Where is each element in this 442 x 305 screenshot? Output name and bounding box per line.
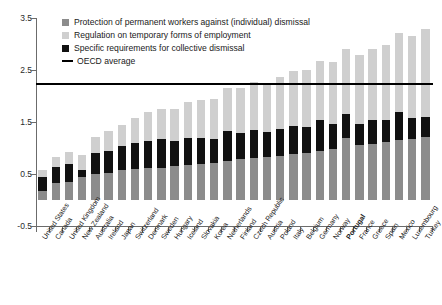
bar-segment-temporary [263,83,272,132]
bar-segment-collective [316,120,325,150]
bar-segment-temporary [170,109,179,141]
bar-segment-collective [250,130,259,159]
chart-legend: Protection of permanent workers against … [62,16,310,68]
bar-segment-permanent [210,163,219,200]
bar-segment-permanent [131,169,140,200]
bar-segment-collective [236,133,245,159]
bar-segment-temporary [65,152,74,163]
bar-segment-collective [329,124,338,149]
bar-segment-collective [355,124,364,146]
bar-segment-collective [91,153,100,174]
bar-segment-permanent [104,173,113,200]
bar-segment-permanent [421,137,430,200]
legend-label-collective: Specific requirements for collective dis… [74,43,245,53]
legend-label-oecd-average: OECD average [77,56,135,66]
bar-segment-permanent [329,149,338,200]
bar-segment-permanent [65,182,74,200]
bar-segment-permanent [250,158,259,200]
bar-segment-collective [276,129,285,156]
bar-segment-permanent [223,161,232,200]
legend-item-oecd-average: OECD average [62,55,310,67]
bar-segment-permanent [368,144,377,200]
bar-segment-temporary [316,61,325,121]
bar-segment-permanent [263,157,272,200]
bar-segment-temporary [236,88,245,134]
bar-segment-temporary [408,36,417,118]
bar-segment-permanent [342,138,351,200]
light-gray-swatch-icon [62,32,69,39]
bar-segment-permanent [184,165,193,200]
bar-segment-collective [118,146,127,169]
bar-segment-temporary [289,71,298,126]
bar-segment-collective [78,170,87,177]
bar-segment-temporary [250,82,259,130]
bar-segment-permanent [395,140,404,200]
bar-segment-collective [368,120,377,143]
bar-segment-permanent [170,166,179,200]
legend-item-permanent: Protection of permanent workers against … [62,16,310,28]
bar-segment-temporary [355,55,364,124]
bar-segment-collective [408,118,417,139]
bar-segment-permanent [78,177,87,200]
bar-segment-temporary [329,62,338,124]
bar-segment-collective [421,117,430,137]
black-swatch-icon [62,45,69,52]
bar-segment-permanent [289,154,298,200]
bar-segment-collective [223,131,232,161]
bar-segment-collective [65,164,74,182]
bar-segment-collective [289,126,298,155]
bar-segment-collective [263,132,272,157]
bar-segment-temporary [38,170,47,176]
bar-segment-collective [342,114,351,137]
bar-segment-temporary [395,33,404,112]
oecd-average-line [36,83,433,85]
bar-segment-permanent [157,168,166,200]
bar-segment-permanent [236,159,245,200]
bar-segment-collective [184,138,193,165]
legend-item-temporary: Regulation on temporary forms of employm… [62,29,310,41]
legend-label-temporary: Regulation on temporary forms of employm… [74,30,251,40]
bar-segment-permanent [382,142,391,200]
bar-segment-permanent [144,168,153,200]
bar-segment-permanent [276,156,285,200]
bar-segment-temporary [210,99,219,140]
bar-segment-collective [144,141,153,168]
bar-segment-temporary [223,88,232,131]
bar-segment-permanent [316,151,325,200]
bar-segment-temporary [302,70,311,127]
bar-segment-temporary [421,29,430,116]
bar-segment-collective [170,141,179,166]
bar-segment-temporary [144,112,153,141]
bar-segment-permanent [302,153,311,200]
bar-segment-temporary [157,109,166,139]
gray-swatch-icon [62,19,69,26]
bar-segment-temporary [52,157,61,166]
bar-segment-collective [382,120,391,142]
bar-segment-temporary [104,131,113,151]
bar-segment-collective [131,143,140,169]
x-tick-mark [36,227,37,232]
bar-segment-permanent [355,145,364,200]
bar-segment-collective [302,127,311,153]
bar-segment-collective [52,167,61,184]
bar-segment-permanent [52,183,61,200]
bar-segment-permanent [408,139,417,200]
bar-segment-permanent [118,170,127,200]
bar-segment-permanent [197,164,206,200]
bar-segment-temporary [131,118,140,143]
bar-segment-permanent [38,191,47,200]
bar-segment-collective [104,151,113,173]
bar-segment-temporary [118,125,127,147]
bar-segment-collective [157,139,166,168]
bar-segment-collective [38,177,47,192]
bar-segment-temporary [78,155,87,170]
legend-label-permanent: Protection of permanent workers against … [74,17,310,27]
bar-segment-collective [210,139,219,162]
bar-segment-temporary [91,137,100,154]
bar-segment-temporary [184,102,193,137]
bar-segment-temporary [342,49,351,114]
bar-segment-temporary [197,100,206,137]
bar-segment-collective [197,138,206,164]
legend-item-collective: Specific requirements for collective dis… [62,42,310,54]
